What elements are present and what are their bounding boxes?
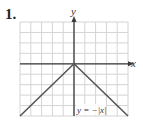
equation-label: y = −|x| bbox=[76, 105, 107, 115]
graph-plot: x y y = −|x| bbox=[0, 0, 143, 126]
x-axis-label: x bbox=[130, 57, 136, 69]
y-axis-label: y bbox=[70, 5, 76, 17]
